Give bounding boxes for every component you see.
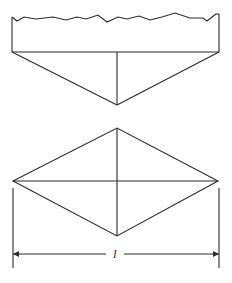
rough-top-edge <box>12 13 216 22</box>
triangle-right-edge <box>117 52 219 105</box>
length-dimension: l <box>13 188 219 268</box>
rhombus-view <box>13 128 218 236</box>
diagram-canvas: l <box>0 0 232 283</box>
triangle-left-edge <box>12 52 117 105</box>
top-section-view <box>12 13 219 105</box>
length-label: l <box>113 248 117 261</box>
rhombus-outline <box>13 128 218 236</box>
